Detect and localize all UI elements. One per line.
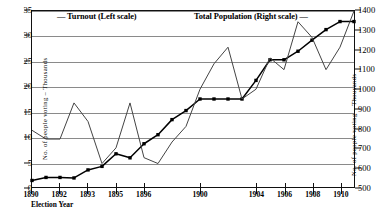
left-axis-caption: No. of people voting – Thousands <box>41 58 48 160</box>
x-axis-tick-label: 1890 <box>23 190 38 199</box>
data-point-marker <box>184 109 187 112</box>
data-point-marker <box>254 79 257 82</box>
x-axis-tick-label: 1896 <box>136 190 151 199</box>
x-axis-tick-label: 1908 <box>305 190 320 199</box>
left-axis-tick-mark <box>24 35 30 36</box>
x-axis-tick-label: 1893 <box>80 190 95 199</box>
right-axis-tick-mark <box>355 29 361 30</box>
legend-item-total-population: Total Population (Right scale) — <box>194 12 308 21</box>
right-axis-tick-mark <box>355 49 361 50</box>
left-axis-tick-mark <box>24 137 30 138</box>
x-axis-tick-label: 1900 <box>192 190 207 199</box>
data-point-marker <box>198 97 201 100</box>
data-point-marker <box>142 142 145 145</box>
right-axis-tick-mark <box>355 10 361 11</box>
data-point-marker <box>44 176 47 179</box>
plot-area <box>31 10 355 188</box>
x-axis-tick-label: 1904 <box>249 190 264 199</box>
x-axis-tick-label: 1892 <box>52 190 67 199</box>
right-axis-tick-mark <box>355 188 361 189</box>
series-line-total-population <box>32 11 354 164</box>
right-axis-tick-label: 1400 <box>358 5 386 15</box>
left-axis-tick-mark <box>24 188 30 189</box>
data-point-marker <box>72 176 75 179</box>
right-axis-tick-label: 1300 <box>358 25 386 35</box>
x-axis-title: Election Year <box>31 200 73 209</box>
x-axis-tick-label: 1895 <box>108 190 123 199</box>
right-axis-tick-label: 1200 <box>358 45 386 55</box>
left-axis-tick-mark <box>24 10 30 11</box>
data-point-marker <box>226 97 229 100</box>
x-axis-tick-label: 1906 <box>277 190 292 199</box>
left-axis-tick-mark <box>24 162 30 163</box>
left-axis-tick-mark <box>24 86 30 87</box>
right-axis-tick-label: 800 <box>358 124 386 134</box>
data-point-marker <box>170 118 173 121</box>
left-axis-tick-mark <box>24 60 30 61</box>
right-axis-caption: No. of people voting – Thousands <box>350 74 357 176</box>
series-line-turnout <box>32 22 354 181</box>
chart-root: — Turnout (Left scale) Total Population … <box>0 0 389 210</box>
legend-item-turnout: — Turnout (Left scale) <box>57 12 136 21</box>
data-series-layer <box>32 11 354 187</box>
data-point-marker <box>58 176 61 179</box>
right-axis-tick-label: 1000 <box>358 84 386 94</box>
right-axis-tick-label: 600 <box>358 163 386 173</box>
chart-legend: — Turnout (Left scale) Total Population … <box>31 10 355 29</box>
data-point-marker <box>100 165 103 168</box>
right-axis-tick-label: 900 <box>358 104 386 114</box>
data-point-marker <box>156 133 159 136</box>
right-axis-tick-mark <box>355 69 361 70</box>
data-point-marker <box>296 50 299 53</box>
data-point-marker <box>30 179 33 182</box>
data-point-marker <box>212 97 215 100</box>
data-point-marker <box>282 58 285 61</box>
right-axis-tick-label: 500 <box>358 183 386 193</box>
right-axis-tick-label: 1100 <box>358 64 386 74</box>
right-axis-tick-label: 700 <box>358 143 386 153</box>
left-axis-tick-mark <box>24 111 30 112</box>
x-axis-tick-label: 1910 <box>333 190 348 199</box>
data-point-marker <box>128 156 131 159</box>
data-point-marker <box>86 168 89 171</box>
data-point-marker <box>114 152 117 155</box>
